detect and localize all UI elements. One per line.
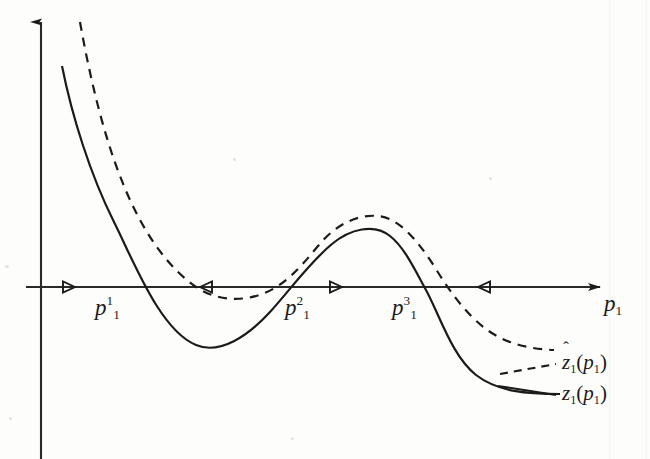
root-label-sub-1: 1 bbox=[113, 307, 120, 322]
figure-container: p11 p21 p31 p1 ˆz1(p1) z1(p1) bbox=[0, 0, 650, 459]
legend-zhat1-arg-base: p bbox=[583, 350, 594, 374]
curve-z1-solid bbox=[62, 66, 560, 394]
root-label-sub-3: 1 bbox=[410, 307, 417, 322]
hat-accent-icon: ˆ bbox=[563, 340, 569, 357]
curve-zhat1-dashed bbox=[80, 22, 554, 350]
root-label-sub-2: 1 bbox=[303, 307, 310, 322]
axis-group bbox=[26, 22, 600, 459]
root-label-p1-2: p21 bbox=[285, 296, 310, 319]
root-label-base-3: p bbox=[392, 295, 404, 320]
x-axis-label-sub: 1 bbox=[616, 303, 623, 318]
legend-z1-base: z bbox=[562, 381, 570, 405]
x-axis-label-base: p bbox=[604, 291, 616, 316]
x-axis-label: p1 bbox=[604, 292, 622, 315]
root-label-base-1: p bbox=[95, 295, 107, 320]
diagram-canvas bbox=[0, 0, 650, 459]
root-label-p1-1: p11 bbox=[95, 296, 120, 319]
root-label-p1-3: p31 bbox=[392, 296, 417, 319]
legend-z1-paren-close: ) bbox=[600, 381, 607, 405]
legend-z1-arg-base: p bbox=[583, 381, 594, 405]
legend-entry-zhat1: ˆz1(p1) bbox=[562, 352, 607, 373]
root-label-base-2: p bbox=[285, 295, 297, 320]
legend-zhat1-paren-close: ) bbox=[600, 350, 607, 374]
legend-entry-z1: z1(p1) bbox=[562, 383, 607, 404]
legend-zhat1-hatted-symbol: ˆz bbox=[562, 352, 570, 373]
